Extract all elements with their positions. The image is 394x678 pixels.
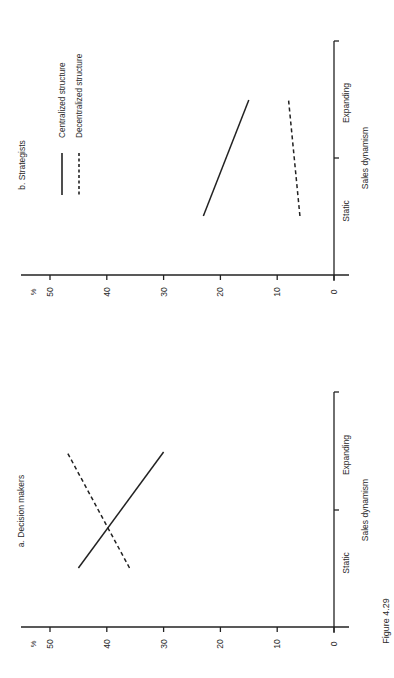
chart-panel-decision-makers: 01020304050%StaticExpandingSales dynamis…: [16, 392, 370, 649]
category-axis-title: Sales dynamism: [360, 127, 370, 189]
series-line-decentralized: [289, 100, 300, 216]
category-label-expanding: Expanding: [341, 435, 351, 475]
category-axis-title: Sales dynamism: [360, 479, 370, 541]
value-tick-label: 30: [159, 287, 169, 297]
chart-title-strategists: b. Strategists: [17, 140, 27, 190]
value-tick-label: 50: [45, 639, 55, 649]
value-tick-label: 40: [102, 287, 112, 297]
value-tick-label: 10: [272, 287, 282, 297]
legend-label-decentralized: Decentralized structure: [75, 53, 84, 138]
value-axis-unit: %: [29, 640, 38, 647]
value-tick-label: 50: [45, 287, 55, 297]
value-tick-label: 30: [159, 639, 169, 649]
category-label-static: Static: [341, 552, 351, 574]
legend: Centralized structureDecentralized struc…: [58, 53, 84, 195]
figure-4-29: 01020304050%StaticExpandingSales dynamis…: [0, 0, 394, 678]
value-tick-label: 10: [272, 639, 282, 649]
value-tick-label: 20: [215, 639, 225, 649]
value-tick-label: 20: [215, 287, 225, 297]
chart-title-decision-makers: a. Decision makers: [16, 475, 26, 547]
value-tick-label: 0: [329, 289, 339, 294]
value-tick-label: 0: [329, 641, 339, 646]
category-label-expanding: Expanding: [341, 83, 351, 123]
legend-label-centralized: Centralized structure: [58, 62, 67, 138]
figure-svg: 01020304050%StaticExpandingSales dynamis…: [0, 0, 394, 678]
category-label-static: Static: [341, 200, 351, 222]
series-line-centralized: [78, 452, 163, 568]
figure-caption: Figure 4.29: [381, 598, 391, 644]
series-line-centralized: [203, 100, 248, 216]
chart-panel-strategists: 01020304050%StaticExpandingSales dynamis…: [17, 41, 370, 297]
value-axis-unit: %: [29, 288, 38, 295]
value-tick-label: 40: [102, 639, 112, 649]
